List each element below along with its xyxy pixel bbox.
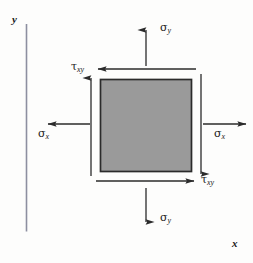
stress-element-square (101, 80, 192, 172)
sigma-x-subscript: x (222, 132, 225, 141)
sigma-x-left-label: σx (38, 128, 49, 141)
sigma-y-subscript: y (168, 216, 171, 225)
sigma-x-subscript: x (46, 132, 49, 141)
sigma-x-right-label: σx (214, 128, 225, 141)
y-axis-label: y (12, 14, 17, 25)
tau-xy-bottom-label: τxy (201, 174, 214, 187)
stress-element-figure: y x σy τxy σx σx τxy σy (0, 0, 253, 263)
x-axis-label: x (232, 238, 238, 249)
tau-xy-top-label: τxy (71, 61, 84, 74)
tau-xy-subscript: xy (207, 178, 214, 187)
sigma-symbol: σ (160, 21, 168, 34)
sigma-symbol: σ (38, 127, 46, 140)
tau-xy-subscript: xy (77, 65, 84, 74)
sigma-symbol: σ (214, 127, 222, 140)
sigma-y-bottom-label: σy (160, 212, 171, 225)
sigma-symbol: σ (160, 211, 168, 224)
sigma-y-top-label: σy (160, 22, 171, 35)
sigma-y-subscript: y (168, 26, 171, 35)
